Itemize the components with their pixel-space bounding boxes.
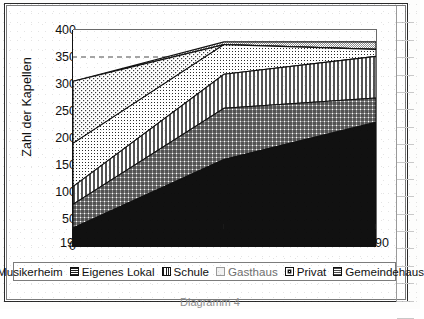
legend-swatch-schule [162, 267, 171, 276]
y-tick-label: 400 [36, 24, 76, 37]
x-tick-label: 1990 [361, 236, 389, 250]
y-tick-label: 200 [36, 132, 76, 145]
legend-item-eigenes-lokal: Eigenes Lokal [70, 266, 155, 278]
x-tick-mark [375, 224, 376, 229]
legend-label: Gasthaus [228, 266, 278, 278]
legend-label: Musikerheim [0, 266, 63, 278]
legend-item-gemeindehaus: Gemeindehaus [333, 266, 424, 278]
y-tick-label: 350 [36, 51, 76, 64]
y-tick-label: 100 [36, 186, 76, 199]
y-tick-label: 300 [36, 78, 76, 91]
chart-area: Zahl der Kapellen 400 350 300 250 200 15… [8, 8, 382, 253]
y-tick-label: 250 [36, 105, 76, 118]
x-tick-mark [72, 224, 73, 229]
figure-caption: Diagramm 4 [0, 296, 420, 308]
y-tick-label: 150 [36, 159, 76, 172]
legend-label: Schule [174, 266, 209, 278]
legend-item-privat: Privat [285, 266, 327, 278]
legend-item-gasthaus: Gasthaus [216, 266, 278, 278]
legend-label: Gemeindehaus [345, 266, 424, 278]
x-tick-label: 1976 [211, 236, 239, 250]
plot-region [72, 30, 376, 247]
legend-item-schule: Schule [162, 266, 209, 278]
legend-label: Eigenes Lokal [82, 266, 155, 278]
stacked-area-series [73, 30, 376, 246]
y-tick-label: 50 [36, 213, 76, 226]
legend-swatch-privat [285, 267, 294, 276]
legend-label: Privat [297, 266, 327, 278]
legend-swatch-eigenes-lokal [70, 267, 79, 276]
legend-swatch-gemeindehaus [333, 267, 342, 276]
legend-swatch-gasthaus [216, 267, 225, 276]
legend-item-musikerheim: Musikerheim [0, 266, 63, 278]
ruled-margin-column [396, 6, 414, 302]
chart-legend: Musikerheim Eigenes Lokal Schule Gasthau… [13, 262, 396, 281]
x-tick-mark [223, 224, 224, 229]
x-tick-label: 1966 [60, 236, 88, 250]
